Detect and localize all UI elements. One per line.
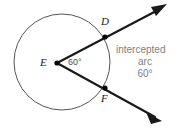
point-D-dot <box>102 34 107 39</box>
intercepted-arc-annotation: intercepted arc 60° <box>116 44 188 80</box>
annotation-line-3: 60° <box>116 68 188 80</box>
point-E-dot <box>54 60 59 65</box>
ray-EF-arrowhead <box>146 112 162 124</box>
point-label-D: D <box>101 16 109 27</box>
circle-E <box>14 14 110 110</box>
ray-ED-arrowhead <box>151 4 167 16</box>
point-F-dot <box>102 85 107 90</box>
point-label-E: E <box>40 57 47 68</box>
central-angle-label: 60° <box>68 58 82 67</box>
point-label-F: F <box>101 93 108 104</box>
annotation-line-2: arc <box>116 56 188 68</box>
annotation-line-1: intercepted <box>116 44 188 56</box>
geometry-figure: E D F 60° intercepted arc 60° <box>0 0 189 128</box>
